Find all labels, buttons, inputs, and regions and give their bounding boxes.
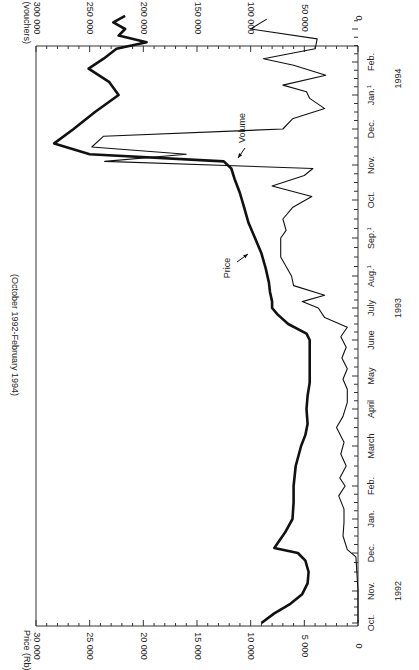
month-tick-label: Feb. (366, 477, 376, 495)
month-tick-label: Oct. (366, 192, 376, 209)
price-axis-title: Price (Rb) (22, 630, 32, 670)
volume-tick-label: 50 000 (300, 4, 310, 32)
price-annotation: Price (222, 258, 232, 279)
price-tick-label: 10 000 (246, 632, 256, 660)
month-tick-label: April (366, 400, 376, 418)
volume-line (92, 19, 358, 623)
chart-subtitle: (October 1992-February 1994) (10, 274, 20, 396)
month-tick-label: Sep.1 (366, 226, 377, 249)
price-tick-label: 30 000 (32, 632, 42, 660)
annotations: PriceVolume (222, 113, 248, 278)
price-tick-label: 25 000 (85, 632, 95, 660)
volume-tick-label: 200 000 (139, 2, 149, 35)
month-tick-label: Oct. (366, 615, 376, 632)
price-line (54, 16, 310, 623)
volume-axis-title: Average daily volume (vouchers) (22, 0, 32, 44)
volume-tick-label: 300 000 (32, 2, 42, 35)
axis-ticks (36, 21, 358, 626)
year-label: 1993 (393, 298, 403, 318)
volume-tick-label: 250 000 (85, 2, 95, 35)
month-tick-label: Dec. (366, 544, 376, 563)
month-tick-label: March (366, 433, 376, 458)
month-tick-label: Dec. (366, 120, 376, 139)
plot-frame (36, 46, 358, 626)
month-tick-label: Jan. (366, 510, 376, 527)
data-series (54, 16, 358, 623)
volume-tick-label: 0 (354, 15, 364, 20)
price-tick-label: 5 000 (300, 635, 310, 658)
month-tick-label: Jan.1 (366, 84, 377, 105)
month-tick-label: Feb. (366, 53, 376, 71)
month-tick-label: July (366, 300, 376, 317)
price-tick-label: 15 000 (193, 632, 203, 660)
price-tick-label: 20 000 (139, 632, 149, 660)
month-tick-label: May (366, 367, 376, 385)
price-tick-label: 0 (354, 643, 364, 648)
year-label: 1992 (393, 581, 403, 601)
year-label: 1994 (393, 68, 403, 88)
price-volume-chart: 050 000100 000150 000200 000250 000300 0… (0, 0, 419, 670)
month-tick-label: Nov. (366, 156, 376, 174)
month-tick-label: Aug.1 (366, 264, 377, 287)
volume-tick-label: 150 000 (193, 2, 203, 35)
axis-labels: 050 000100 000150 000200 000250 000300 0… (10, 0, 404, 670)
month-tick-label: June (366, 330, 376, 350)
month-tick-label: Nov. (366, 582, 376, 600)
volume-annotation: Volume (237, 113, 247, 143)
